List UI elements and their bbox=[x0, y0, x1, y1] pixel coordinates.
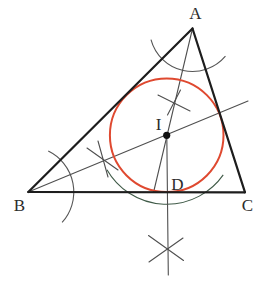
perpendicular-from-i bbox=[167, 135, 169, 275]
geometry-diagram: ABCID bbox=[0, 0, 275, 289]
incenter-label-i: I bbox=[156, 115, 162, 134]
incircle-construction-figure: ABCID bbox=[0, 0, 275, 289]
incenter-dot bbox=[163, 132, 170, 139]
triangle-side-ca bbox=[193, 29, 246, 193]
triangle-side-ab bbox=[28, 29, 192, 193]
foot-label-d: D bbox=[171, 175, 183, 194]
angle-bisector-from-b bbox=[28, 101, 248, 192]
vertex-label-c: C bbox=[242, 196, 253, 215]
arc-below-bc bbox=[107, 170, 223, 205]
tick-cross-on-b-bisector-2 bbox=[98, 141, 108, 177]
angle-arc-at-b bbox=[48, 151, 74, 222]
tick-cross-below-bc-1 bbox=[149, 236, 184, 261]
tick-cross-on-a-bisector-2 bbox=[168, 90, 181, 115]
vertex-label-b: B bbox=[14, 196, 25, 215]
tick-cross-below-bc-2 bbox=[149, 238, 183, 262]
angle-bisector-from-a bbox=[154, 29, 193, 193]
vertex-label-a: A bbox=[189, 4, 202, 23]
